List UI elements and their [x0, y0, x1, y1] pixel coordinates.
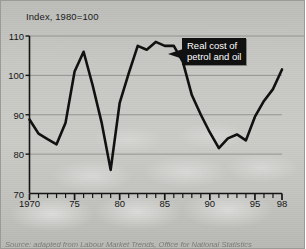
- y-axis-labels: 708090100110: [0, 0, 24, 249]
- chart-figure: Index, 1980=100 708090100110 19707580859…: [0, 0, 305, 249]
- x-tick-label-1980: 80: [114, 198, 125, 209]
- plot-area: [0, 0, 305, 249]
- y-tick-label-100: 100: [8, 70, 24, 81]
- x-tick-label-1985: 85: [159, 198, 170, 209]
- callout-line-2: petrol and oil: [187, 51, 241, 62]
- x-tick-label-1995: 95: [250, 198, 261, 209]
- callout-arrow-icon: [168, 49, 183, 59]
- y-tick-label-90: 90: [13, 109, 24, 120]
- x-tick-label-1970: 1970: [19, 198, 40, 209]
- x-tick-label-1990: 90: [205, 198, 216, 209]
- gridlines: [26, 36, 306, 154]
- series-callout-label: Real cost of petrol and oil: [182, 38, 246, 65]
- callout-line-1: Real cost of: [187, 40, 241, 51]
- x-axis-ticks: [30, 194, 283, 201]
- y-tick-label-110: 110: [9, 31, 24, 42]
- x-tick-label-1975: 75: [69, 198, 80, 209]
- x-tick-label-1998: 98: [277, 198, 288, 209]
- source-note: Source: adapted from Labour Market Trend…: [5, 240, 252, 249]
- y-tick-label-80: 80: [13, 149, 24, 160]
